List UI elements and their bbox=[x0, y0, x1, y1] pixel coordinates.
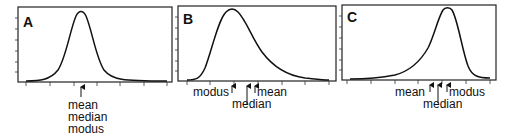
panel-b: B modus mean median bbox=[175, 6, 336, 111]
panel-a-label: A bbox=[23, 14, 33, 30]
panel-b-modus-label: modus bbox=[193, 85, 229, 99]
panel-c-frame bbox=[342, 5, 496, 80]
panel-b-median-label: median bbox=[232, 97, 271, 111]
panel-c-mean-label: mean bbox=[395, 85, 425, 99]
figure: A mean median modus B mo bbox=[0, 0, 515, 138]
panel-c-label: C bbox=[347, 9, 357, 25]
panel-c: C mean modus median bbox=[339, 5, 496, 111]
panel-a: A mean median modus bbox=[15, 7, 172, 136]
panel-c-median-label: median bbox=[423, 97, 462, 111]
panel-a-modus-label: modus bbox=[68, 122, 104, 136]
panel-b-label: B bbox=[183, 11, 193, 27]
